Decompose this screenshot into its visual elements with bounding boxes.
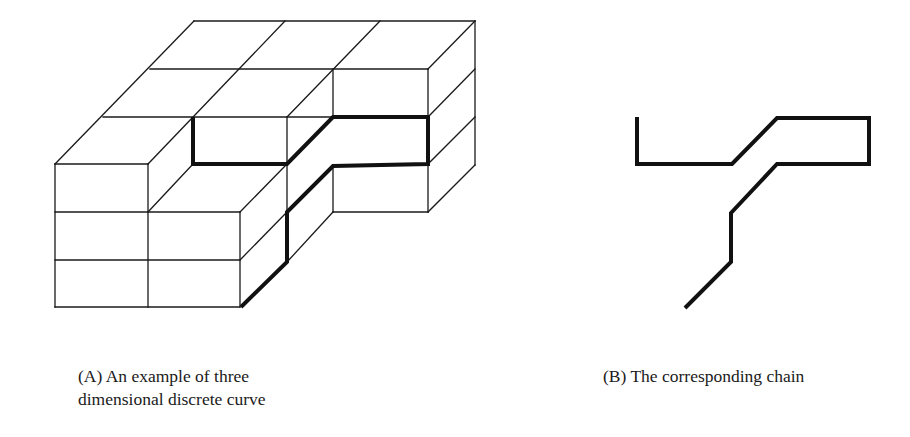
caption-panel-a: (A) An example of three dimensional disc… (78, 365, 338, 411)
caption-b-text: (B) The corresponding chain (603, 365, 903, 388)
caption-a-line-2: dimensional discrete curve (78, 388, 338, 411)
cube-edge (240, 164, 287, 212)
cube-edge (428, 21, 475, 69)
caption-a-line-1: (A) An example of three (78, 365, 338, 388)
cube-edge (287, 212, 333, 262)
cube-edge (240, 212, 287, 260)
cube-edge (148, 164, 193, 212)
cube-edge (428, 117, 475, 164)
cube-edge (428, 165, 475, 212)
corresponding-chain-path (637, 117, 869, 308)
cube-edge (148, 21, 285, 164)
caption-panel-b: (B) The corresponding chain (603, 365, 903, 388)
cube-edge (428, 69, 475, 117)
cube-edge (55, 21, 194, 164)
